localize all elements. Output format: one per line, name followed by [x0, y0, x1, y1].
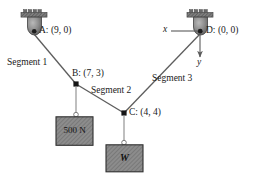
segment-3-label: Segment 3	[152, 74, 192, 84]
node-b-marker	[73, 81, 78, 86]
block-w-label: W	[106, 153, 143, 163]
block-w-ring-icon	[122, 140, 127, 145]
node-c-marker	[121, 110, 126, 115]
anchor-d-label: D: (0, 0)	[206, 26, 238, 36]
node-b-label: B: (7, 3)	[72, 69, 104, 79]
coordinate-axes	[171, 31, 200, 57]
anchor-a-label: A: (9, 0)	[39, 26, 71, 36]
segment-2-label: Segment 2	[91, 86, 131, 96]
block-500n-label: 500 N	[56, 126, 93, 135]
segment-1-label: Segment 1	[7, 58, 47, 68]
anchor-d-pin	[198, 29, 203, 34]
x-axis-label: x	[163, 25, 167, 35]
cable-system-figure: A: (9, 0) D: (0, 0) B: (7, 3) C: (4, 4) …	[0, 0, 257, 175]
node-c-label: C: (4, 4)	[129, 108, 161, 118]
anchor-a-pin	[32, 29, 37, 34]
y-axis-label: y	[197, 58, 201, 68]
block-500n-ring-icon	[74, 112, 79, 117]
